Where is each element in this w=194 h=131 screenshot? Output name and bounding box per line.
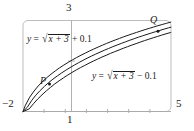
equation-lower-radical: √x + 3 <box>106 71 134 82</box>
graph-canvas <box>0 0 194 131</box>
equation-lower-offset: − 0.1 <box>137 71 157 81</box>
x-axis-max-label: 5 <box>176 98 182 109</box>
equation-label-lower: y = √x + 3 − 0.1 <box>92 71 157 82</box>
point-marker-p <box>48 83 51 86</box>
equation-lower-lhs: y <box>92 71 96 81</box>
equation-upper-radical: √x + 3 <box>41 34 69 45</box>
equation-lower-radicand: x + 3 <box>113 71 135 82</box>
equation-upper-offset: + 0.1 <box>72 34 92 44</box>
x-axis-min-label: −2 <box>2 98 14 109</box>
equation-upper-lhs: y <box>27 34 31 44</box>
figure-container: 3 −2 5 1 P Q y = √x + 3 + 0.1 y = √x + 3… <box>0 0 194 131</box>
point-marker-q <box>157 30 160 33</box>
equation-upper-equals: = <box>34 34 39 44</box>
radical-sign-icon: √ <box>107 70 112 82</box>
equation-lower-equals: = <box>99 71 104 81</box>
equation-label-upper: y = √x + 3 + 0.1 <box>27 34 92 45</box>
point-label-q: Q <box>150 15 157 25</box>
radical-sign-icon: √ <box>42 33 47 45</box>
y-axis-min-label: 1 <box>67 114 73 125</box>
point-label-p: P <box>40 76 46 86</box>
y-axis-max-label: 3 <box>66 2 72 13</box>
equation-upper-radicand: x + 3 <box>48 34 70 45</box>
